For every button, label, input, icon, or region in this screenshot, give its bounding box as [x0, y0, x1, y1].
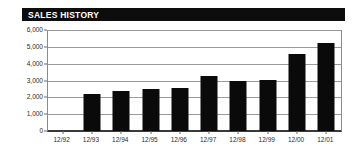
bar-slot [282, 30, 311, 131]
x-axis-tick-label: 12/93 [83, 137, 99, 144]
y-axis-tick-label: 5,000 [27, 44, 43, 51]
x-axis-tick-label: 12/99 [259, 137, 275, 144]
x-axis-tick-mark [209, 131, 210, 134]
bar [171, 88, 188, 131]
bar [113, 91, 130, 131]
y-axis-tick-mark [44, 46, 47, 47]
y-axis-tick-label: 2,000 [27, 94, 43, 101]
x-axis-tick-label: 12/94 [112, 137, 128, 144]
y-axis-tick-mark [44, 114, 47, 115]
x-axis-tick-mark [62, 131, 63, 134]
x-axis-tick-mark [267, 131, 268, 134]
bar [259, 80, 276, 131]
x-axis-tick-label: 12/96 [171, 137, 187, 144]
x-axis-tick-label: 12/95 [141, 137, 157, 144]
y-axis-tick-label: 3,000 [27, 77, 43, 84]
bar-slot [312, 30, 341, 131]
y-axis-tick-label: 6,000 [27, 27, 43, 34]
panel-header: SALES HISTORY [22, 8, 345, 21]
x-axis-tick-mark [91, 131, 92, 134]
x-axis-tick-mark [150, 131, 151, 134]
y-axis-tick-label: 0 [39, 128, 43, 135]
x-axis-tick-mark [238, 131, 239, 134]
x-axis-tick-label: 12/00 [288, 137, 304, 144]
bar-slot [165, 30, 194, 131]
panel-title: SALES HISTORY [28, 10, 99, 19]
bar [318, 43, 335, 131]
y-axis-tick-label: 4,000 [27, 60, 43, 67]
x-axis-tick-mark [121, 131, 122, 134]
bar-slot [77, 30, 106, 131]
x-axis-tick-label: 12/01 [317, 137, 333, 144]
y-axis-tick-mark [44, 131, 47, 132]
bar-slot [224, 30, 253, 131]
bar-slot [195, 30, 224, 131]
bar-series [48, 30, 341, 131]
bar [201, 76, 218, 131]
bar [289, 54, 306, 131]
x-axis-tick-mark [326, 131, 327, 134]
bar-slot [253, 30, 282, 131]
y-axis-tick-label: 1,000 [27, 111, 43, 118]
sales-history-panel: SALES HISTORY 01,0002,0003,0004,0005,000… [0, 0, 359, 150]
bar [230, 81, 247, 132]
x-axis-tick-label: 12/92 [54, 137, 70, 144]
bar [142, 89, 159, 131]
y-axis-tick-mark [44, 97, 47, 98]
y-axis-tick-mark [44, 30, 47, 31]
bar-slot [107, 30, 136, 131]
bar-slot [48, 30, 77, 131]
x-axis-tick-mark [179, 131, 180, 134]
x-axis-tick-label: 12/98 [229, 137, 245, 144]
x-axis-tick-mark [297, 131, 298, 134]
y-axis-tick-mark [44, 63, 47, 64]
sales-history-chart: 01,0002,0003,0004,0005,0006,00012/9212/9… [0, 24, 359, 150]
plot-area [47, 30, 342, 132]
x-axis-tick-label: 12/97 [200, 137, 216, 144]
bar-slot [136, 30, 165, 131]
bar [83, 94, 100, 131]
y-axis-tick-mark [44, 80, 47, 81]
